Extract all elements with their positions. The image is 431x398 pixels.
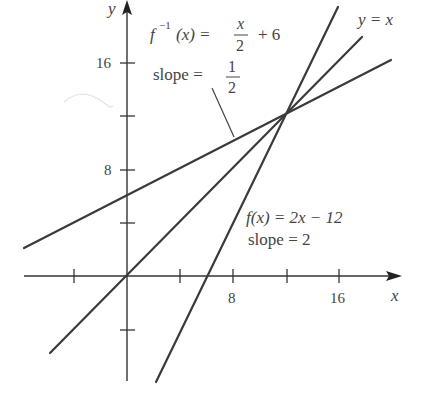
- y-axis-label: y: [106, 0, 116, 18]
- finv-f: f: [150, 25, 157, 44]
- annotation-identity: y = x: [356, 10, 394, 29]
- line-f: [156, 7, 338, 382]
- decorative-squiggle: [64, 94, 113, 107]
- annotation-f-slope: slope = 2: [248, 230, 310, 249]
- annotation-f: f(x) = 2x − 12: [246, 208, 343, 227]
- x-tick-16: 16: [330, 290, 346, 306]
- annotation-f-inverse: f −1 (x) = x 2 + 6 slope = 1 2: [150, 15, 280, 96]
- finv-numerator: x: [236, 15, 244, 32]
- finv-slope-numerator: 1: [228, 58, 236, 75]
- finv-slope-denominator: 2: [228, 79, 236, 96]
- finv-superscript: −1: [159, 19, 171, 31]
- finv-slope-label: slope =: [153, 65, 203, 84]
- axes: [24, 10, 392, 381]
- graph-canvas: y x 8 16 8 16 f −1 (x) = x 2 + 6 slope =…: [0, 0, 431, 398]
- y-tick-8: 8: [104, 162, 112, 178]
- finv-tail: + 6: [258, 25, 280, 44]
- x-axis-label: x: [390, 286, 399, 305]
- finv-rhs: (x) =: [176, 25, 211, 44]
- y-tick-16: 16: [96, 55, 112, 71]
- finv-denominator: 2: [236, 37, 244, 54]
- x-tick-8: 8: [228, 290, 236, 306]
- line-identity: [50, 37, 362, 353]
